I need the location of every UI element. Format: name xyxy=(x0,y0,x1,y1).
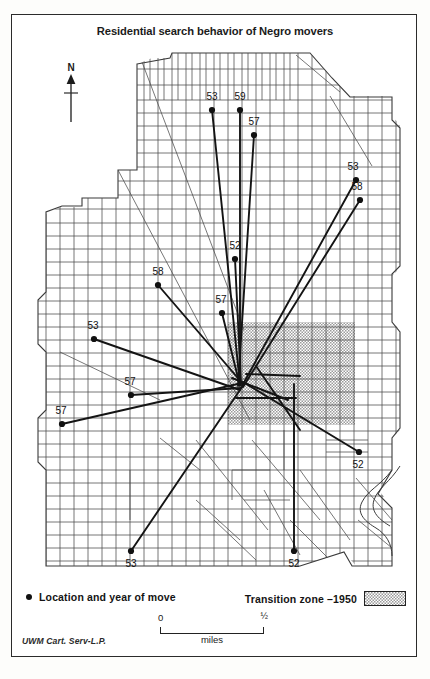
move-year-label: 59 xyxy=(234,91,246,102)
legend-entry-transition-zone: Transition zone –1950 xyxy=(245,591,406,606)
map-figure: Residential search behavior of Negro mov… xyxy=(0,0,430,679)
legend-entry-location: Location and year of move xyxy=(26,591,176,603)
move-year-label: 53 xyxy=(347,161,359,172)
move-year-label: 58 xyxy=(351,181,363,192)
scale-bar: 0 ½ miles xyxy=(158,612,268,646)
city-map: 53 59 57 53 58 52 58 57 53 57 57 52 53 5… xyxy=(11,14,417,574)
legend-location-label: Location and year of move xyxy=(39,591,176,603)
move-year-label: 53 xyxy=(206,91,218,102)
city-outline xyxy=(38,53,400,566)
move-year-label: 57 xyxy=(248,116,260,127)
legend-zone-label: Transition zone –1950 xyxy=(245,593,357,605)
cartographer-credit: UWM Cart. Serv-L.P. xyxy=(22,636,106,646)
map-legend: Location and year of move Transition zon… xyxy=(26,588,406,610)
filled-circle-icon xyxy=(26,594,32,600)
move-year-label: 57 xyxy=(124,376,136,387)
move-year-label: 52 xyxy=(352,459,364,470)
move-year-label: 52 xyxy=(288,558,300,569)
move-year-label: 57 xyxy=(55,405,67,416)
move-year-label: 52 xyxy=(229,240,241,251)
scale-right-value: ½ xyxy=(260,611,268,621)
move-year-label: 58 xyxy=(152,266,164,277)
scale-left-value: 0 xyxy=(158,612,163,623)
stipple-pattern-swatch xyxy=(364,591,406,606)
move-year-label: 53 xyxy=(87,320,99,331)
scale-units-label: miles xyxy=(158,634,266,645)
scale-bar-line xyxy=(160,627,264,634)
move-year-label: 53 xyxy=(125,558,137,569)
move-year-label: 57 xyxy=(215,294,227,305)
